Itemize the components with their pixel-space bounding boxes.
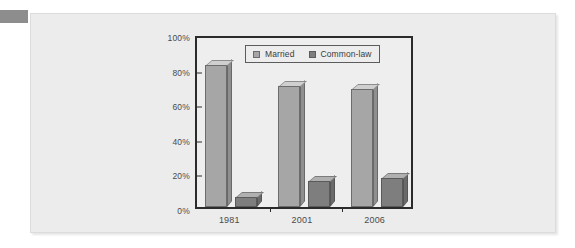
bar-front-face bbox=[278, 86, 300, 207]
legend-entry-married[interactable]: Married bbox=[253, 49, 295, 59]
legend-entry-common-law[interactable]: Common-law bbox=[309, 49, 372, 59]
y-axis-tick-label: 20% bbox=[172, 171, 197, 181]
y-axis-tick-label: 80% bbox=[172, 68, 197, 78]
bar-common-law-2006 bbox=[381, 178, 403, 207]
bar-common-law-2001 bbox=[308, 181, 330, 207]
bar-side-face bbox=[373, 83, 378, 207]
bar-front-face bbox=[205, 65, 227, 207]
bar-front-face bbox=[235, 197, 257, 207]
bar-front-face bbox=[308, 181, 330, 207]
figure-panel: 0%20%40%60%80%100% 198120012006 MarriedC… bbox=[30, 13, 556, 233]
bar-married-1981 bbox=[205, 65, 227, 207]
bar-married-2001 bbox=[278, 86, 300, 207]
married-swatch-icon bbox=[253, 51, 260, 58]
x-axis-tick-label: 1981 bbox=[219, 215, 240, 225]
page-corner-tab bbox=[0, 10, 28, 23]
plot-area: 0%20%40%60%80%100% 198120012006 MarriedC… bbox=[195, 36, 413, 209]
y-axis-tick-label: 100% bbox=[167, 33, 197, 43]
y-axis-tick-label: 60% bbox=[172, 102, 197, 112]
x-axis-tick-label: 2006 bbox=[364, 215, 385, 225]
x-axis-tick-mark bbox=[270, 207, 271, 212]
bar-chart: 0%20%40%60%80%100% 198120012006 MarriedC… bbox=[31, 14, 555, 232]
x-axis-tick-mark bbox=[342, 207, 343, 212]
bar-front-face bbox=[351, 89, 373, 207]
bar-common-law-1981 bbox=[235, 197, 257, 207]
common-law-swatch-icon bbox=[309, 51, 316, 58]
bar-group bbox=[342, 38, 415, 207]
bar-married-2006 bbox=[351, 89, 373, 207]
y-axis-tick-label: 0% bbox=[177, 206, 197, 216]
x-axis-tick-label: 2001 bbox=[292, 215, 313, 225]
bar-group bbox=[270, 38, 343, 207]
y-axis-tick-label: 40% bbox=[172, 137, 197, 147]
legend-label: Married bbox=[265, 49, 295, 59]
chart-legend: MarriedCommon-law bbox=[245, 45, 380, 63]
bar-group bbox=[197, 38, 270, 207]
bar-side-face bbox=[227, 59, 232, 207]
legend-label: Common-law bbox=[321, 49, 372, 59]
bar-side-face bbox=[300, 80, 305, 207]
bar-front-face bbox=[381, 178, 403, 207]
